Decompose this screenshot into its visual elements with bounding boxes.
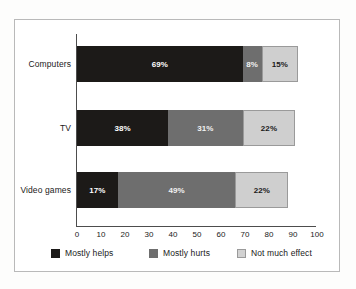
x-tick-label: 50 [193,230,202,239]
bar-rows: Computers 69% 8% 15% TV 38% 31% 22% Vide… [15,34,341,226]
chart-legend: Mostly helps Mostly hurts Not much effec… [15,248,341,264]
x-tick-label: 90 [289,230,298,239]
bar-segment-not-much-effect: 22% [243,110,296,146]
bar-segment-mostly-hurts: 49% [118,172,236,208]
x-axis-line [76,226,316,227]
legend-swatch-icon [149,249,158,258]
x-axis-ticks: 0 10 20 30 40 50 60 70 80 90 100 [15,230,341,244]
chart-frame: Computers 69% 8% 15% TV 38% 31% 22% Vide… [14,19,340,272]
bar-segment-not-much-effect: 22% [235,172,288,208]
x-tick-label: 70 [241,230,250,239]
x-tick-label: 30 [145,230,154,239]
stacked-bar-video-games: 17% 49% 22% [77,172,288,208]
legend-label: Mostly helps [65,248,113,258]
legend-swatch-icon [51,249,60,258]
bar-segment-mostly-helps: 38% [77,110,168,146]
plot-area: Computers 69% 8% 15% TV 38% 31% 22% Vide… [15,20,341,273]
bar-row-video-games: Video games 17% 49% 22% [15,172,341,208]
x-tick-label: 0 [75,230,79,239]
category-label-tv: TV [60,123,71,133]
bar-segment-mostly-hurts: 8% [243,46,262,82]
x-tick-label: 10 [97,230,106,239]
bar-segment-not-much-effect: 15% [262,46,298,82]
bar-segment-mostly-hurts: 31% [168,110,242,146]
bar-segment-mostly-helps: 17% [77,172,118,208]
legend-item-mostly-helps: Mostly helps [51,248,113,258]
bar-row-tv: TV 38% 31% 22% [15,110,341,146]
x-tick-label: 40 [169,230,178,239]
bar-row-computers: Computers 69% 8% 15% [15,46,341,82]
x-tick-label: 60 [217,230,226,239]
legend-item-not-much-effect: Not much effect [237,248,312,258]
category-label-computers: Computers [29,59,71,69]
stacked-bar-computers: 69% 8% 15% [77,46,298,82]
x-tick-label: 20 [121,230,130,239]
bar-segment-mostly-helps: 69% [77,46,243,82]
legend-item-mostly-hurts: Mostly hurts [149,248,210,258]
legend-label: Mostly hurts [163,248,210,258]
legend-label: Not much effect [251,248,312,258]
category-label-video-games: Video games [20,185,71,195]
x-tick-label: 80 [265,230,274,239]
x-tick-label: 100 [310,230,323,239]
legend-swatch-icon [237,249,246,258]
stacked-bar-tv: 38% 31% 22% [77,110,295,146]
